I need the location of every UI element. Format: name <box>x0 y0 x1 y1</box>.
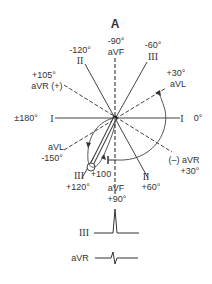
trace-label-avr: aVR <box>71 253 89 263</box>
trace-label-iii: III <box>79 227 89 238</box>
label-ii-bottom: II <box>143 171 150 182</box>
loop-arrow-icon <box>86 142 91 148</box>
label-i-left: I <box>50 113 53 124</box>
label-iii-bottom-angle: +120° <box>66 182 90 192</box>
label-avr-neg: (–) aVR <box>168 155 200 165</box>
label-avf-top-angle: -90° <box>108 36 125 46</box>
label-avl-neg-angle: -150° <box>41 153 63 163</box>
label-iii-top: III <box>148 51 158 62</box>
label-ii-bottom-angle: +60° <box>142 182 161 192</box>
label-avr-pos-angle: +105° <box>32 70 56 80</box>
label-i-left-angle: ±180° <box>14 113 38 123</box>
label-ii-top-angle: -120° <box>69 45 91 55</box>
label-i-right: I <box>180 113 183 124</box>
label-avl-pos: aVL <box>170 79 186 89</box>
label-i-right-angle: 0° <box>194 113 203 123</box>
trace-iii-waveform <box>94 209 139 233</box>
label-iii-top-angle: -60° <box>145 40 162 50</box>
arc-arrow-icon <box>155 90 161 96</box>
label-axis-marker: +100 <box>91 169 111 179</box>
label-avf-bottom-angle: +90° <box>108 194 127 204</box>
label-avf-top: aVF <box>108 47 125 57</box>
label-avl-neg: aVL <box>48 142 64 152</box>
trace-avr-waveform <box>95 252 138 264</box>
label-avr-pos: aVR (+) <box>31 81 62 91</box>
label-iii-bottom: III <box>74 170 84 181</box>
diagram-title: A <box>111 17 120 31</box>
hexaxial-diagram: A -90° aVF -120° II -60° III +105° aVR (… <box>0 0 212 284</box>
label-avf-bottom: aVF <box>108 183 125 193</box>
label-ii-top: II <box>77 55 84 66</box>
label-avl-pos-angle: +30° <box>167 68 186 78</box>
label-avr-neg-angle: +30° <box>181 166 200 176</box>
